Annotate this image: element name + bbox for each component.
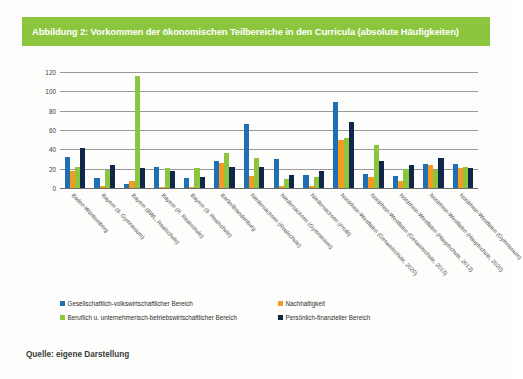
- bar-group: [269, 72, 299, 188]
- x-axis-label-slot: Niedersachsen (Gymnasium): [269, 190, 299, 290]
- bar: [274, 159, 279, 188]
- y-axis-tick-label: 120: [45, 69, 56, 76]
- bar: [409, 165, 414, 188]
- legend-swatch-icon: [278, 315, 283, 320]
- bar-group: [299, 72, 329, 188]
- bar: [289, 175, 294, 188]
- bar: [154, 167, 159, 188]
- x-axis-label-slot: Nordrhein-Westfalen (Hauptschule, 2020): [418, 190, 448, 290]
- bar: [80, 148, 85, 188]
- bar-group: [359, 72, 389, 188]
- legend-item: Nachhaltigkeit: [278, 300, 480, 307]
- bar-group: [329, 72, 359, 188]
- x-axis-label-slot: Bayern (R. Realschule): [150, 190, 180, 290]
- bar: [349, 122, 354, 188]
- bar-group: [209, 72, 239, 188]
- y-axis-tick-label: 0: [52, 185, 56, 192]
- bar-group: [448, 72, 478, 188]
- chart-legend: Gesellschaftlich-volkswirtschaftlicher B…: [60, 300, 480, 321]
- legend-label: Gesellschaftlich-volkswirtschaftlicher B…: [68, 300, 193, 307]
- legend-label: Beruflich u. unternehmerisch-betriebswir…: [68, 314, 237, 321]
- legend-label: Nachhaltigkeit: [286, 300, 326, 307]
- legend-swatch-icon: [60, 315, 65, 320]
- y-axis-tick-label: 100: [45, 88, 56, 95]
- x-axis-label-slot: Niedersachsen (Realschule): [239, 190, 269, 290]
- chart-container: 020406080100120 Baden-WürttembergBayern …: [22, 58, 490, 290]
- bar-groups: [60, 72, 478, 188]
- bar-group: [90, 72, 120, 188]
- bar: [379, 161, 384, 188]
- legend-item: Beruflich u. unternehmerisch-betriebswir…: [60, 314, 278, 321]
- axis-baseline: [60, 188, 478, 189]
- bar-group: [388, 72, 418, 188]
- x-axis-tick-label: Nordrhein-Westfalen (Gymnasium): [459, 192, 523, 260]
- x-axis-label-slot: Nordrhein-Westfalen (Gymnasium): [448, 190, 478, 290]
- y-axis-tick-label: 40: [49, 146, 56, 153]
- figure-title-band: Abbildung 2: Vorkommen der ökonomischen …: [22, 17, 490, 46]
- bar: [319, 171, 324, 188]
- x-axis-label-slot: Bayern (BWL, Realschule): [120, 190, 150, 290]
- legend-item: Gesellschaftlich-volkswirtschaftlicher B…: [60, 300, 278, 307]
- bar: [140, 168, 145, 188]
- x-axis-label-slot: Baden-Württemberg: [60, 190, 90, 290]
- bar-group: [150, 72, 180, 188]
- legend-label: Persönlich-finanzieller Bereich: [286, 314, 371, 321]
- y-axis-ticks: 020406080100120: [22, 72, 56, 188]
- x-axis-label-slot: Bayern (8. Gymnasium): [90, 190, 120, 290]
- bar-group: [60, 72, 90, 188]
- x-axis-label-slot: Bayern (9. Realschule): [179, 190, 209, 290]
- bar: [259, 167, 264, 188]
- bar: [170, 171, 175, 188]
- x-axis-label-slot: Nordrhein-Westfalen (Hauptschule, 2013): [388, 190, 418, 290]
- x-axis-label-slot: Berlin/Brandenburg: [209, 190, 239, 290]
- x-axis-label-slot: Nordrhein-Westfalen (Gesamtschule, 2013): [359, 190, 389, 290]
- legend-swatch-icon: [278, 301, 283, 306]
- y-axis-tick-label: 80: [49, 107, 56, 114]
- legend-swatch-icon: [60, 301, 65, 306]
- source-note: Quelle: eigene Darstellung: [26, 350, 129, 359]
- x-axis-label-slot: Nordrhein-Westfalen (Gesamtschule, 2020): [329, 190, 359, 290]
- y-axis-tick-label: 20: [49, 165, 56, 172]
- legend-item: Persönlich-finanzieller Bereich: [278, 314, 480, 321]
- bar: [200, 177, 205, 188]
- bar: [229, 167, 234, 188]
- figure-title: Abbildung 2: Vorkommen der ökonomischen …: [22, 26, 459, 37]
- bar: [110, 165, 115, 188]
- bar: [468, 168, 473, 188]
- y-axis-tick-label: 60: [49, 127, 56, 134]
- bar-group: [418, 72, 448, 188]
- bar: [438, 158, 443, 188]
- bar-group: [179, 72, 209, 188]
- x-axis-labels: Baden-WürttembergBayern (8. Gymnasium)Ba…: [60, 190, 478, 290]
- bar-group: [120, 72, 150, 188]
- plot-area: [60, 72, 478, 188]
- x-axis-label-slot: Niedersachsen (Profil): [299, 190, 329, 290]
- bar-group: [239, 72, 269, 188]
